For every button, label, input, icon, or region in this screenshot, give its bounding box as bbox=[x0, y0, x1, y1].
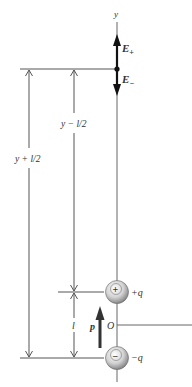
positive-charge: + bbox=[106, 281, 129, 304]
dipole-moment-label: p bbox=[89, 321, 95, 332]
e-plus-arrow bbox=[113, 34, 121, 69]
svg-text:−: − bbox=[113, 351, 119, 362]
y-axis-label: y bbox=[113, 9, 118, 19]
distance-far-label: y + l/2 bbox=[14, 154, 41, 164]
origin-label: O bbox=[107, 320, 114, 331]
dimension-near bbox=[71, 70, 78, 291]
negative-charge: − bbox=[106, 347, 129, 370]
distance-near-label: y − l/2 bbox=[60, 119, 87, 129]
positive-charge-label: +q bbox=[131, 287, 143, 298]
e-minus-label: E− bbox=[121, 73, 134, 88]
separation-label: l bbox=[72, 320, 75, 331]
e-plus-label: E+ bbox=[121, 42, 134, 57]
svg-text:+: + bbox=[113, 284, 119, 295]
negative-charge-label: −q bbox=[131, 352, 143, 363]
e-minus-arrow bbox=[113, 69, 121, 96]
dimension-far bbox=[26, 70, 33, 357]
dipole-diagram: y E+ E− y + l/2 y − l/2 bbox=[0, 0, 192, 387]
field-point bbox=[114, 66, 119, 71]
dipole-moment-arrow bbox=[96, 306, 105, 348]
